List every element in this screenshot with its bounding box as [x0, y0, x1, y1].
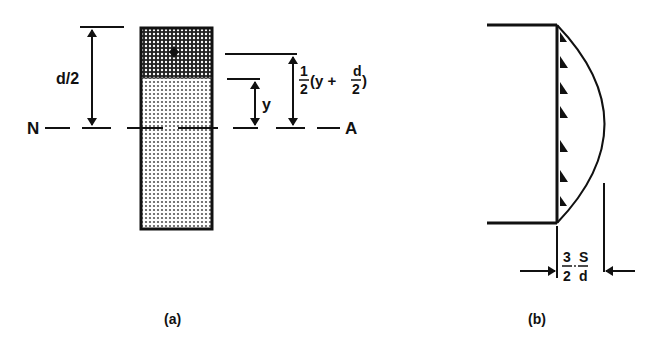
dim-y-label: y [262, 96, 271, 113]
caption-a: (a) [164, 311, 181, 327]
axis-label-n: N [27, 119, 39, 138]
svg-text:1: 1 [300, 63, 308, 79]
dim-lever-arm-label: 1 2 (y + d 2 ) [299, 63, 367, 97]
caption-b: (b) [528, 311, 546, 327]
svg-text:3: 3 [563, 249, 571, 265]
svg-text:d: d [579, 268, 588, 284]
svg-text:2: 2 [352, 81, 360, 97]
dim-d-half-label: d/2 [56, 70, 79, 87]
figure-b-shear-distribution: 3 2 S d (b) [487, 25, 635, 327]
svg-text:2: 2 [300, 81, 308, 97]
svg-text:d: d [353, 63, 362, 79]
svg-text:): ) [362, 72, 367, 89]
shear-stress-arrows [560, 32, 568, 206]
figure-a-cross-section: N A d/2 y 1 2 (y + d 2 ) (a) [27, 27, 367, 327]
svg-text:S: S [579, 249, 588, 265]
parabolic-shear-curve [557, 25, 605, 223]
axis-label-a: A [345, 119, 357, 138]
svg-text:(y +: (y + [310, 72, 337, 89]
shear-stress-diagram: N A d/2 y 1 2 (y + d 2 ) (a) [0, 0, 667, 339]
beam-section-lower [141, 78, 212, 229]
svg-text:2: 2 [563, 268, 571, 284]
dim-max-stress-label: 3 2 S d [562, 249, 588, 284]
